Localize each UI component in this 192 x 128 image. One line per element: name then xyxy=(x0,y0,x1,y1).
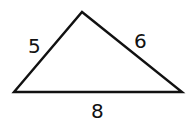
side-label-base: 8 xyxy=(91,99,104,123)
side-label-right: 6 xyxy=(134,29,147,53)
side-label-left: 5 xyxy=(28,34,41,58)
triangle-diagram: 5 6 8 xyxy=(0,0,192,128)
